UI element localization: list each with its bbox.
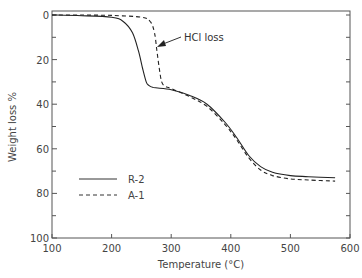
x-axis-ticks: 100200300400500600 [42, 234, 359, 254]
y-tick-label: 80 [36, 188, 49, 199]
legend: R-2 A-1 [79, 174, 145, 201]
x-tick-label: 300 [162, 243, 181, 254]
y-tick-label: 40 [36, 99, 49, 110]
x-tick-label: 100 [42, 243, 61, 254]
x-axis-title: Temperature (°C) [157, 259, 244, 270]
legend-label-a1: A-1 [128, 190, 145, 201]
x-tick-label: 600 [340, 243, 359, 254]
x-tick-label: 400 [221, 243, 240, 254]
arrow-head-icon [157, 40, 166, 47]
annotation-arrow-line [163, 37, 181, 44]
x-tick-label: 200 [102, 243, 121, 254]
plot-border [52, 11, 350, 238]
y-axis-ticks: 020406080100 [30, 10, 350, 244]
hcl-loss-annotation: HCl loss [157, 32, 224, 47]
x-tick-label: 500 [281, 243, 300, 254]
annotation-label: HCl loss [184, 32, 224, 43]
y-tick-label: 60 [36, 144, 49, 155]
tga-chart: 020406080100 100200300400500600 Temperat… [0, 0, 362, 278]
y-tick-label: 0 [43, 10, 49, 21]
legend-label-r2: R-2 [128, 174, 145, 185]
y-axis-title: Weight loss % [7, 92, 18, 162]
plot-frame [52, 11, 350, 238]
y-tick-label: 20 [36, 55, 49, 66]
